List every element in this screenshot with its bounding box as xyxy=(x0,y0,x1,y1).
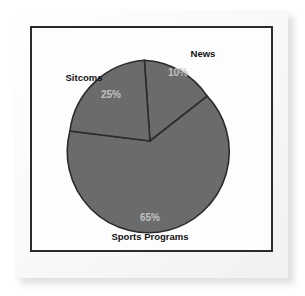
slice-label-sports-programs: Sports Programs xyxy=(111,231,188,242)
pie-chart-screenshot: News Sitcoms Sports Programs 10% 25% 65% xyxy=(0,0,305,296)
pie-chart: News Sitcoms Sports Programs 10% 25% 65% xyxy=(0,0,305,296)
slice-label-news: News xyxy=(191,48,216,59)
slice-value-news: 10% xyxy=(168,67,188,78)
pie-chart-svg: News Sitcoms Sports Programs 10% 25% 65% xyxy=(0,0,305,296)
slice-label-sitcoms: Sitcoms xyxy=(66,72,103,83)
slice-value-sitcoms: 25% xyxy=(101,89,121,100)
slice-value-sports-programs: 65% xyxy=(140,212,160,223)
